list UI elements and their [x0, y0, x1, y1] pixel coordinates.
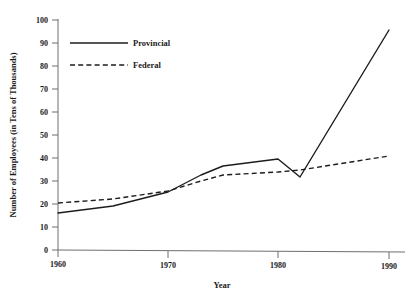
x-tick-label: 1970	[160, 261, 176, 270]
legend-label-federal: Federal	[133, 60, 161, 70]
y-tick-label: 0	[44, 246, 48, 255]
x-axis-title: Year	[214, 280, 231, 290]
chart-container: 100 90 80 70 60 50 40 30 20 10 0 1960 19…	[0, 0, 420, 296]
y-tick-label: 50	[40, 131, 48, 140]
y-tick-label: 10	[40, 223, 48, 232]
x-tick-label: 1960	[50, 260, 66, 269]
x-tick-label: 1990	[381, 262, 397, 271]
y-tick-label: 20	[40, 200, 48, 209]
y-tick-label: 30	[40, 177, 48, 186]
y-tick-label: 100	[36, 16, 48, 25]
y-axis-title: Number of Employees (in Tens of Thousand…	[8, 52, 18, 217]
legend-label-provincial: Provincial	[133, 38, 171, 48]
y-tick-label: 70	[40, 85, 48, 94]
y-tick-label: 90	[40, 39, 48, 48]
x-tick-label: 1980	[270, 261, 286, 270]
y-tick-label: 40	[40, 154, 48, 163]
y-tick-label: 80	[40, 62, 48, 71]
line-chart: 100 90 80 70 60 50 40 30 20 10 0 1960 19…	[0, 0, 420, 296]
y-tick-label: 60	[40, 108, 48, 117]
